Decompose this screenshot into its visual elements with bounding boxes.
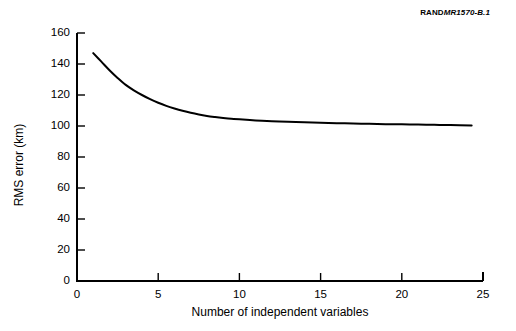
y-tick-label-0: 0 xyxy=(30,275,70,287)
y-tick-label-60: 60 xyxy=(30,182,70,194)
figure-rms-error-vs-variables: RANDMR1570-B.1 160140120100806040200 051… xyxy=(0,0,516,331)
y-tick-label-140: 140 xyxy=(30,58,70,70)
x-tick-label-25: 25 xyxy=(463,289,503,301)
x-tick-label-15: 15 xyxy=(301,289,341,301)
x-tick-label-0: 0 xyxy=(57,289,97,301)
x-tick-label-5: 5 xyxy=(138,289,178,301)
axis-spines xyxy=(76,33,483,281)
y-axis-title-text: RMS error (km) xyxy=(13,100,25,230)
y-axis-title: RMS error (km) xyxy=(13,0,25,100)
x-axis-title: Number of independent variables xyxy=(77,306,483,318)
y-tick-label-20: 20 xyxy=(30,244,70,256)
y-tick-marks xyxy=(77,33,85,281)
y-tick-label-100: 100 xyxy=(30,120,70,132)
x-tick-label-20: 20 xyxy=(382,289,422,301)
y-tick-label-160: 160 xyxy=(30,27,70,39)
y-tick-label-120: 120 xyxy=(30,89,70,101)
y-tick-label-40: 40 xyxy=(30,213,70,225)
y-tick-label-80: 80 xyxy=(30,151,70,163)
plot-area: 160140120100806040200 0510152025 xyxy=(0,0,516,331)
x-tick-marks xyxy=(77,273,483,281)
chart-canvas xyxy=(0,0,516,331)
data-line-rms-error xyxy=(93,53,471,125)
x-tick-label-10: 10 xyxy=(219,289,259,301)
